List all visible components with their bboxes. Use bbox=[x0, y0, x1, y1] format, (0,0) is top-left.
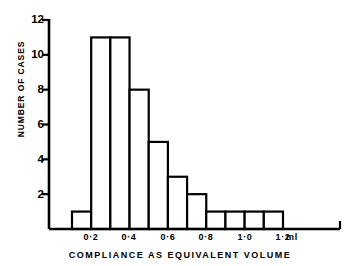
x-axis-unit-label: ml bbox=[275, 232, 309, 243]
x-tick-label: 0·2 bbox=[71, 232, 111, 243]
x-axis-title: COMPLIANCE AS EQUIVALENT VOLUME bbox=[20, 250, 340, 261]
x-tick-label: 1·0 bbox=[225, 232, 265, 243]
plot-area bbox=[0, 0, 352, 266]
histogram-bar bbox=[168, 177, 187, 229]
histogram-bar bbox=[245, 212, 264, 229]
histogram-bar bbox=[72, 212, 91, 229]
x-tick-label: 0·6 bbox=[148, 232, 188, 243]
bars-group bbox=[72, 37, 283, 229]
histogram-bar bbox=[264, 212, 283, 229]
histogram-bar bbox=[91, 37, 110, 229]
x-axis-tick-labels: 0·2 0·4 0·6 0·8 1·0 1·2 ml bbox=[0, 232, 352, 246]
histogram-bar bbox=[225, 212, 244, 229]
x-tick-label: 0·4 bbox=[109, 232, 149, 243]
histogram-bar bbox=[206, 212, 225, 229]
histogram-bar bbox=[110, 37, 129, 229]
histogram-bar bbox=[130, 90, 149, 229]
histogram-bar bbox=[187, 194, 206, 229]
x-tick-label: 0·8 bbox=[186, 232, 226, 243]
histogram-figure: NUMBER OF CASES 12 10 8 6 4 2 0·2 0·4 0·… bbox=[0, 0, 352, 266]
histogram-bar bbox=[149, 142, 168, 229]
